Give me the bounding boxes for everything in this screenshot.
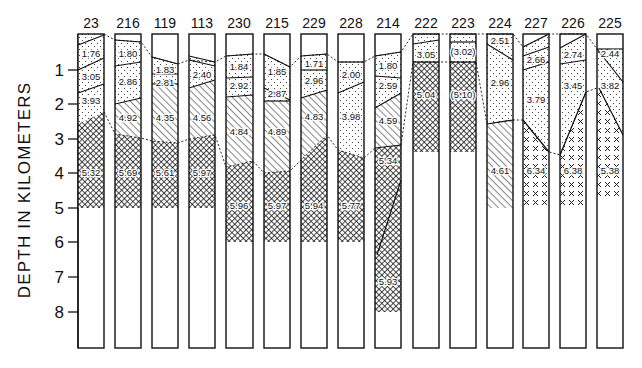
svg-text:2.40: 2.40: [193, 69, 212, 80]
column-header: 228: [339, 15, 363, 31]
y-tick: 7: [55, 268, 64, 287]
column-header: 215: [265, 15, 289, 31]
svg-text:5.96: 5.96: [230, 200, 249, 211]
velocity-depth-diagram: 23 216 119 113 230 215 229 228 214 222 2…: [0, 0, 642, 368]
svg-text:3.05: 3.05: [417, 49, 436, 60]
column-header: 230: [227, 15, 251, 31]
svg-text:4.92: 4.92: [119, 112, 138, 123]
column-header: 229: [302, 15, 326, 31]
column-headers: 23 216 119 113 230 215 229 228 214 222 2…: [83, 15, 622, 31]
column-223: [450, 34, 476, 348]
svg-text:3.79: 3.79: [527, 94, 546, 105]
svg-text:2.59: 2.59: [379, 80, 398, 91]
y-tick: 1: [55, 61, 64, 80]
svg-text:2.96: 2.96: [491, 77, 510, 88]
svg-text:5.04: 5.04: [417, 89, 436, 100]
svg-text:5.77: 5.77: [342, 200, 361, 211]
column-header: 214: [376, 15, 400, 31]
svg-text:3.82: 3.82: [601, 80, 620, 91]
svg-text:1.76: 1.76: [82, 48, 101, 59]
svg-text:5.38: 5.38: [601, 165, 620, 176]
svg-text:5.93: 5.93: [379, 276, 398, 287]
column-113: [189, 34, 215, 348]
svg-text:5.97: 5.97: [193, 167, 212, 178]
svg-text:5.32: 5.32: [82, 167, 101, 178]
svg-text:2.66: 2.66: [527, 54, 546, 65]
svg-text:2.74: 2.74: [564, 49, 583, 60]
svg-text:4.59: 4.59: [379, 115, 398, 126]
svg-text:4.61: 4.61: [491, 165, 510, 176]
svg-text:1.85: 1.85: [268, 66, 287, 77]
svg-text:5.69: 5.69: [119, 167, 138, 178]
svg-text:4.84: 4.84: [230, 126, 249, 137]
column-header: 226: [561, 15, 585, 31]
svg-text:1.83: 1.83: [156, 64, 175, 75]
y-tick: 8: [55, 303, 64, 322]
svg-text:2.44: 2.44: [601, 48, 620, 59]
svg-text:2.92: 2.92: [230, 80, 249, 91]
svg-text:4.83: 4.83: [305, 111, 324, 122]
y-tick: 4: [55, 164, 64, 183]
column-header: 23: [83, 15, 99, 31]
svg-text:3.05: 3.05: [82, 71, 101, 82]
svg-text:5.97: 5.97: [268, 200, 287, 211]
y-tick: 6: [55, 233, 64, 252]
svg-text:4.89: 4.89: [268, 126, 287, 137]
svg-text:(3.02): (3.02): [451, 46, 476, 57]
svg-text:6.34: 6.34: [527, 165, 546, 176]
svg-text:2.96: 2.96: [305, 75, 324, 86]
svg-text:5.94: 5.94: [305, 200, 324, 211]
column-228: [338, 34, 364, 348]
column-header: 113: [191, 15, 214, 31]
svg-text:4.56: 4.56: [193, 112, 212, 123]
svg-text:1.84: 1.84: [230, 61, 249, 72]
column-header: 119: [154, 15, 177, 31]
column-header: 222: [414, 15, 438, 31]
y-tick-labels: 1 2 3 4 5 6 7 8: [55, 61, 64, 322]
y-tick: 5: [55, 199, 64, 218]
svg-text:3.45: 3.45: [564, 80, 583, 91]
svg-text:3.98: 3.98: [342, 111, 361, 122]
column-header: 225: [598, 15, 622, 31]
y-axis-title: DEPTH IN KILOMETERS: [15, 82, 34, 298]
y-tick: 3: [55, 130, 64, 149]
column-header: 216: [116, 15, 140, 31]
column-215: [264, 34, 290, 348]
svg-text:1.80: 1.80: [119, 48, 138, 59]
svg-text:6.38: 6.38: [564, 165, 583, 176]
svg-text:1.80: 1.80: [379, 60, 398, 71]
svg-text:1.71: 1.71: [305, 58, 324, 69]
svg-text:2.87: 2.87: [268, 88, 287, 99]
svg-text:2.00: 2.00: [342, 69, 361, 80]
column-header: 227: [524, 15, 548, 31]
svg-text:2.81: 2.81: [156, 77, 175, 88]
y-tick: 2: [55, 95, 64, 114]
column-header: 223: [451, 15, 475, 31]
column-227: [523, 34, 549, 348]
svg-text:2.51: 2.51: [491, 35, 510, 46]
svg-text:5.61: 5.61: [156, 167, 175, 178]
svg-text:(5.10): (5.10): [451, 89, 476, 100]
svg-text:2.86: 2.86: [119, 76, 138, 87]
svg-text:4.35: 4.35: [156, 112, 175, 123]
y-axis: [68, 34, 78, 348]
column-222: [413, 34, 439, 348]
svg-text:5.34: 5.34: [379, 155, 398, 166]
column-header: 224: [488, 15, 512, 31]
svg-text:3.93: 3.93: [82, 95, 101, 106]
